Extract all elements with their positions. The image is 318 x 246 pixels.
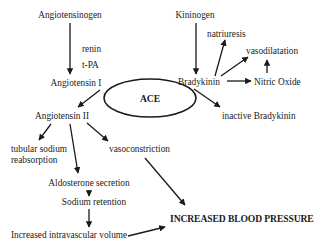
node-aldosterone-secretion: Aldosterone secretion [48,178,129,189]
node-angiotensin-ii: Angiotensin II [35,111,89,122]
arrows-layer [0,0,318,246]
node-sodium-retention: Sodium retention [62,197,126,208]
node-inactive-bradykinin: inactive Bradykinin [222,111,296,122]
arrow-bradykinin-to-vasodilatation [221,57,248,76]
node-nitric-oxide: Nitric Oxide [254,77,301,88]
arrow-bradykinin-to-inactive [194,89,220,107]
node-natriuresis: natriuresis [207,29,246,40]
pathway-diagram: Angiotensinogen renin t-PA Angiotensin I… [0,0,318,246]
node-angiotensin-i: Angiotensin I [51,78,102,89]
node-tubular-sodium-reabsorption: tubular sodium reabsorption [11,144,67,166]
node-bradykinin: Bradykinin [178,77,220,88]
arrow-angiotensin-ii-to-tubular-sodium [39,124,51,140]
node-kininogen: Kininogen [175,10,214,21]
node-vasodilatation: vasodilatation [246,46,298,57]
arrow-bradykinin-to-natriuresis [215,40,225,76]
node-ace: ACE [140,93,160,104]
label-tpa: t-PA [82,60,99,71]
arrow-volume-to-blood-pressure [128,227,165,236]
node-vasoconstriction: vasoconstriction [109,144,170,155]
node-angiotensinogen: Angiotensinogen [38,10,102,21]
arrow-vasoconstriction-to-blood-pressure [145,158,185,205]
arrow-angiotensin-ii-to-aldosterone [70,124,78,173]
arrow-angiotensin-i-to-ii [78,90,100,107]
arrow-angiotensin-ii-to-vasoconstriction [87,123,108,141]
node-increased-blood-pressure: INCREASED BLOOD PRESSURE [170,213,314,224]
label-renin: renin [82,44,101,55]
node-increased-intravascular-volume: Increased intravascular volume [11,230,127,241]
